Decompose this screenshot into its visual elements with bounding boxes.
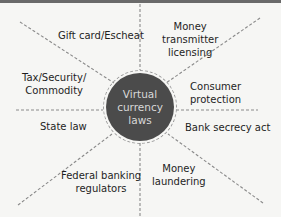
label-consumer-protection: Consumer protection — [190, 80, 241, 106]
label-state-law: State law — [40, 120, 87, 133]
label-bank-secrecy-act: Bank secrecy act — [185, 121, 270, 134]
hub-line-3: laws — [117, 114, 163, 127]
label-tax-security-commodity: Tax/Security/ Commodity — [22, 71, 86, 97]
hub-line-2: currency — [117, 101, 163, 114]
label-money-transmitter: Money transmitter licensing — [162, 20, 218, 59]
hub-virtual-currency-laws: Virtual currency laws — [106, 73, 174, 141]
label-federal-banking-regulators: Federal banking regulators — [61, 169, 141, 195]
label-money-laundering: Money laundering — [152, 162, 206, 188]
hub-line-1: Virtual — [117, 88, 163, 101]
label-gift-card: Gift card/Escheat — [58, 29, 144, 42]
